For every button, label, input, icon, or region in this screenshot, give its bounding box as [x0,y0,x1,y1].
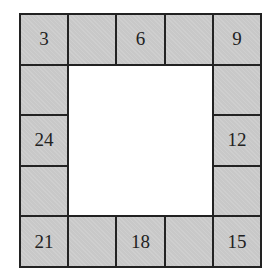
center-empty [68,65,213,217]
cell-r5c1: 21 [20,216,68,267]
cell-r4c1 [20,166,68,217]
cell-r4c5 [213,166,261,217]
cell-r1c1: 3 [20,14,68,65]
cell-r3c1: 24 [20,115,68,166]
cell-r2c5 [213,65,261,116]
cell-r5c3: 18 [116,216,164,267]
cell-r1c4 [165,14,213,65]
cell-r5c5: 15 [213,216,261,267]
cell-r3c5: 12 [213,115,261,166]
cell-r2c1 [20,65,68,116]
cell-r1c2 [68,14,116,65]
cell-r1c5: 9 [213,14,261,65]
cell-r1c3: 6 [116,14,164,65]
number-ring-grid: 3 6 9 24 12 21 18 15 [19,13,262,268]
cell-r5c2 [68,216,116,267]
cell-r5c4 [165,216,213,267]
